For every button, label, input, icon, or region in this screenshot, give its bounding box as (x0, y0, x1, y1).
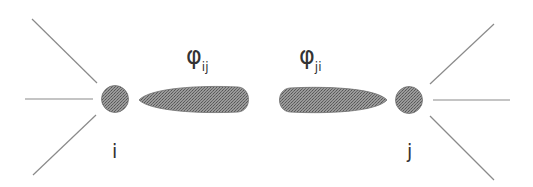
phi-symbol: φ (186, 42, 202, 70)
bond-line (33, 115, 96, 175)
node-j-circle (396, 87, 423, 114)
node-j-bonds (430, 24, 510, 180)
bond-line (430, 116, 494, 180)
node-i-bonds (25, 19, 97, 175)
phi-subscript: ij (202, 60, 209, 74)
lobe-phi-ij (139, 86, 249, 112)
node-i-circle (102, 86, 129, 113)
label-phi-ij: φij (186, 44, 209, 72)
lobe-phi-ji (280, 87, 388, 112)
bond-line (430, 24, 494, 84)
bond-line (32, 19, 97, 83)
label-node-i: i (112, 142, 117, 161)
orbital-diagram (0, 0, 533, 187)
label-node-j: j (407, 142, 412, 161)
phi-subscript: ji (315, 60, 322, 74)
phi-symbol: φ (299, 42, 315, 70)
label-phi-ji: φji (299, 44, 322, 72)
